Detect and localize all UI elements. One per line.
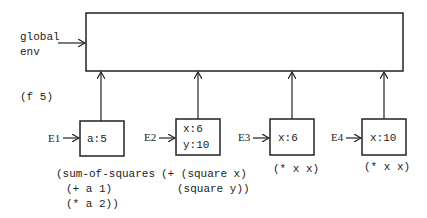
e4-label: E4	[331, 131, 344, 143]
global-env-label-line1: global	[20, 31, 60, 43]
global-env-label-line2: env	[20, 46, 40, 58]
e1-body-line2: (+ a 1)	[66, 183, 112, 195]
e2-label: E2	[144, 131, 156, 143]
e4-binding-x: x:10	[370, 132, 396, 144]
global-env-frame	[86, 13, 403, 71]
e3-binding-x: x:6	[278, 132, 298, 144]
e1-binding-a: a:5	[87, 133, 107, 145]
call-expression: (f 5)	[20, 91, 53, 103]
e2-body-line1: (+ (square x)	[161, 168, 247, 180]
e3-body-line1: (* x x)	[273, 163, 319, 175]
e1-body-line1: (sum-of-squares	[56, 168, 155, 180]
e4-body-line1: (* x x)	[364, 161, 410, 173]
e2-body-line2: (square y))	[177, 183, 250, 195]
e1-body-line3: (* a 2))	[66, 198, 119, 210]
e3-label: E3	[238, 131, 251, 143]
e2-binding-x: x:6	[183, 123, 203, 135]
e2-binding-y: y:10	[183, 139, 209, 151]
environment-diagram: global env (f 5) E1 a:5 (sum-of-squares …	[0, 0, 427, 218]
e1-label: E1	[48, 132, 60, 144]
